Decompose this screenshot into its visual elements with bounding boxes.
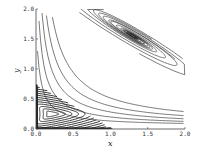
x-axis-label: x xyxy=(108,139,113,148)
y-tick-label: 1.5 xyxy=(23,35,34,42)
x-tick-label: 2.0 xyxy=(180,130,191,137)
x-tick-label: 1.5 xyxy=(142,130,153,137)
y-tick-label: 2.0 xyxy=(23,5,34,12)
trajectory-curves xyxy=(37,9,185,128)
y-tick-label: 1.0 xyxy=(23,65,34,72)
y-tick-label: 0.0 xyxy=(23,125,34,132)
x-tick-label: 0.5 xyxy=(68,130,79,137)
y-axis-label: y xyxy=(12,68,21,74)
phase-portrait-chart: 0.00.51.01.52.00.00.51.01.52.0 x y xyxy=(0,0,199,152)
x-tick-label: 1.0 xyxy=(105,130,116,137)
y-tick-label: 0.5 xyxy=(23,95,34,102)
